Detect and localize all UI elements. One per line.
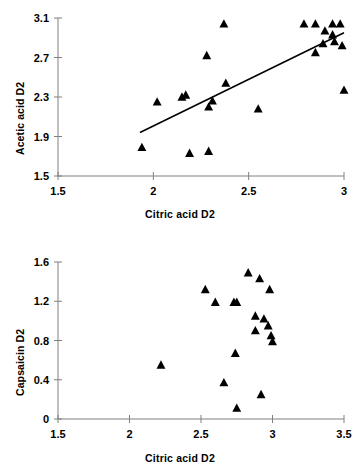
- acetic-acid-panel: 1.522.531.51.92.32.73.1 Acetic acid D2 C…: [0, 0, 360, 237]
- data-point-marker: [320, 26, 329, 34]
- x-tick-label: 1.5: [50, 185, 65, 197]
- data-point-marker: [340, 85, 349, 93]
- y-tick-label: 0.4: [34, 374, 50, 386]
- data-point-marker: [204, 147, 213, 155]
- data-point-marker: [328, 19, 337, 27]
- y-axis-label-acetic: Acetic acid D2: [14, 82, 26, 155]
- y-tick-label: 2.3: [34, 91, 49, 103]
- data-point-marker: [265, 285, 274, 293]
- data-point-marker: [185, 149, 194, 157]
- data-point-marker: [259, 314, 268, 322]
- data-point-marker: [267, 331, 276, 339]
- data-point-marker: [211, 298, 220, 306]
- x-tick-label: 3: [269, 428, 275, 440]
- y-tick-label: 0: [43, 413, 49, 425]
- data-point-marker: [156, 360, 165, 368]
- y-tick-label: 0.8: [34, 335, 49, 347]
- x-tick-label: 2.5: [241, 185, 256, 197]
- data-point-marker: [254, 104, 263, 112]
- data-point-marker: [328, 30, 337, 38]
- capsaicin-panel: 1.522.533.500.40.81.21.6: [0, 237, 360, 475]
- y-tick-label: 1.9: [34, 131, 49, 143]
- data-point-marker: [311, 19, 320, 27]
- data-point-marker: [137, 143, 146, 151]
- y-tick-label: 1.6: [34, 256, 49, 268]
- data-point-marker: [231, 349, 240, 357]
- data-point-marker: [201, 285, 210, 293]
- data-point-marker: [208, 96, 217, 104]
- y-tick-label: 1.5: [34, 170, 49, 182]
- data-point-marker: [255, 274, 264, 282]
- data-point-marker: [219, 378, 228, 386]
- x-tick-label: 3.5: [336, 428, 351, 440]
- capsaicin-scatter-plot: 1.522.533.500.40.81.21.6: [0, 237, 360, 475]
- data-point-marker: [232, 404, 241, 412]
- y-tick-label: 3.1: [34, 12, 49, 24]
- data-point-marker: [251, 326, 260, 334]
- data-point-marker: [221, 78, 230, 86]
- data-point-marker: [257, 390, 266, 398]
- x-tick-label: 2: [150, 185, 156, 197]
- data-point-marker: [251, 311, 260, 319]
- x-tick-label: 2: [126, 428, 132, 440]
- x-tick-label: 1.5: [50, 428, 65, 440]
- acetic-acid-scatter-plot: 1.522.531.51.92.32.73.1: [0, 0, 360, 237]
- y-tick-label: 2.7: [34, 52, 49, 64]
- data-point-marker: [338, 41, 347, 49]
- x-axis-label-citric-bottom: Citric acid D2: [0, 452, 360, 464]
- data-point-marker: [202, 51, 211, 59]
- data-point-marker: [244, 268, 253, 276]
- data-point-marker: [299, 19, 308, 27]
- data-point-marker: [219, 19, 228, 27]
- x-tick-label: 2.5: [193, 428, 208, 440]
- regression-trendline: [140, 33, 344, 133]
- data-point-marker: [319, 39, 328, 47]
- data-point-marker: [153, 97, 162, 105]
- data-point-marker: [336, 19, 345, 27]
- x-axis-label-citric-top: Citric acid D2: [0, 208, 360, 220]
- y-axis-label-capsaicin: Capsaicin D2: [14, 329, 26, 396]
- y-tick-label: 1.2: [34, 295, 49, 307]
- figure-root: 1.522.531.51.92.32.73.1 Acetic acid D2 C…: [0, 0, 360, 475]
- x-tick-label: 3: [341, 185, 347, 197]
